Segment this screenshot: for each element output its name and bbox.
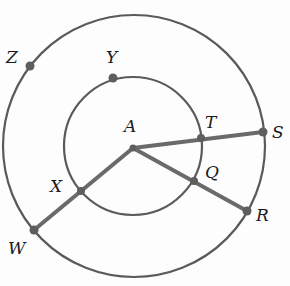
label-W: W	[8, 238, 27, 258]
label-Q: Q	[205, 162, 219, 182]
label-A: A	[122, 116, 136, 136]
point-A	[130, 145, 137, 152]
point-S	[259, 128, 268, 137]
point-W	[30, 226, 39, 235]
concentric-circles-diagram: A T S Q R X W Y Z	[0, 0, 290, 286]
point-X	[77, 187, 85, 195]
diagram-svg: A T S Q R X W Y Z	[0, 0, 290, 286]
label-Z: Z	[5, 47, 19, 67]
label-R: R	[255, 205, 269, 225]
point-Z	[26, 62, 35, 71]
point-T	[197, 134, 205, 142]
label-X: X	[48, 176, 63, 196]
point-Q	[190, 177, 198, 185]
point-Y	[109, 74, 118, 83]
label-S: S	[272, 122, 284, 142]
point-R	[243, 207, 252, 216]
label-T: T	[205, 112, 218, 132]
segment-AR	[133, 148, 247, 211]
label-Y: Y	[106, 47, 119, 67]
